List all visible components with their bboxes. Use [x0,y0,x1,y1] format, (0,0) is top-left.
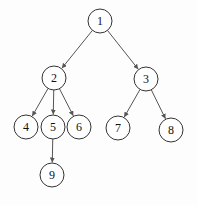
tree-node-9: 9 [40,163,64,187]
edge-1-2 [62,30,93,68]
nodes-layer: 123456789 [14,9,183,187]
tree-node-4: 4 [14,115,38,139]
tree-node-7: 7 [106,116,130,140]
node-label: 6 [76,120,82,134]
node-label: 2 [51,71,57,85]
tree-node-1: 1 [88,9,112,33]
node-label: 9 [49,168,55,182]
tree-node-2: 2 [42,66,66,90]
tree-svg: 123456789 [0,0,197,205]
tree-node-5: 5 [41,115,65,139]
node-label: 7 [115,121,121,135]
node-label: 4 [23,120,29,134]
tree-node-3: 3 [134,67,158,91]
edge-2-5 [53,90,54,115]
tree-node-6: 6 [67,115,91,139]
tree-node-8: 8 [159,118,183,142]
edges-layer [32,30,165,162]
node-label: 5 [50,120,56,134]
edge-2-4 [32,88,48,116]
node-label: 8 [168,123,174,137]
tree-diagram: 123456789 [0,0,197,205]
node-label: 1 [97,14,103,28]
node-label: 3 [143,72,149,86]
edge-3-8 [151,90,165,119]
edge-3-7 [124,89,140,117]
edge-1-3 [107,30,138,69]
edge-2-6 [59,89,73,116]
